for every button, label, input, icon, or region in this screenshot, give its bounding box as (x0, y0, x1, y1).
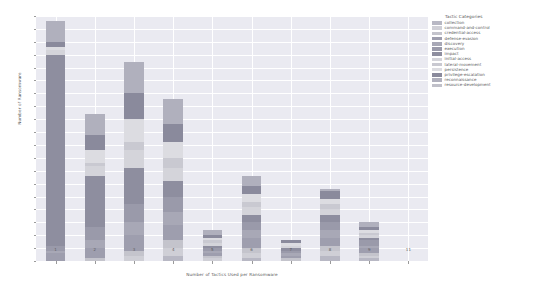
y-tick-mark (34, 106, 37, 107)
legend-title: Tactic Categories (445, 14, 535, 19)
bar-stack[interactable] (203, 230, 223, 261)
bar-segment[interactable] (163, 142, 183, 157)
bar-segment[interactable] (242, 194, 262, 202)
plot-area (36, 16, 428, 261)
bar-segment[interactable] (163, 99, 183, 125)
legend-label: lateral-movement (445, 63, 482, 67)
bar-segment[interactable] (359, 235, 379, 238)
bar-segment[interactable] (46, 47, 66, 50)
bar-segment[interactable] (124, 222, 144, 235)
legend-swatch (432, 63, 442, 67)
bar-segment[interactable] (242, 222, 262, 230)
bar-segment[interactable] (124, 150, 144, 168)
bar-segment[interactable] (320, 238, 340, 246)
legend-label: defense-evasion (445, 37, 479, 41)
bar-segment[interactable] (46, 253, 66, 261)
bar-segment[interactable] (359, 222, 379, 227)
bar-segment[interactable] (124, 93, 144, 119)
bar-segment[interactable] (281, 253, 301, 256)
legend-swatch (432, 42, 442, 46)
bar-segment[interactable] (85, 135, 105, 150)
bar-segment[interactable] (46, 55, 66, 246)
bar-segment[interactable] (203, 230, 223, 235)
bar-stack[interactable] (85, 114, 105, 261)
gridline-vertical (212, 16, 213, 261)
bar-segment[interactable] (46, 50, 66, 55)
bar-segment[interactable] (320, 191, 340, 199)
bar-stack[interactable] (163, 99, 183, 261)
legend-item[interactable]: resource-development (432, 83, 535, 88)
bar-segment[interactable] (281, 240, 301, 243)
x-tick-mark (56, 261, 57, 264)
bar-segment[interactable] (242, 207, 262, 215)
y-tick-mark (34, 145, 37, 146)
legend-label: resource-development (445, 83, 491, 87)
bar-segment[interactable] (281, 243, 301, 246)
bar-stack[interactable] (124, 62, 144, 261)
bar-stack[interactable] (46, 21, 66, 261)
bar-segment[interactable] (46, 21, 66, 42)
bar-segment[interactable] (359, 230, 379, 233)
legend-swatch (432, 32, 442, 36)
bar-segment[interactable] (359, 238, 379, 241)
bar-segment[interactable] (163, 197, 183, 212)
bar-segment[interactable] (242, 176, 262, 186)
bar-segment[interactable] (203, 240, 223, 243)
bar-segment[interactable] (203, 238, 223, 241)
bar-segment[interactable] (124, 62, 144, 93)
bar-segment[interactable] (359, 240, 379, 245)
bar-segment[interactable] (85, 176, 105, 228)
bar-segment[interactable] (242, 202, 262, 207)
bar-segment[interactable] (203, 253, 223, 256)
bar-segment[interactable] (320, 189, 340, 192)
y-tick-mark (34, 248, 37, 249)
bar-segment[interactable] (242, 230, 262, 238)
bar-segment[interactable] (242, 215, 262, 223)
x-tick-mark (212, 261, 213, 264)
bar-segment[interactable] (281, 256, 301, 259)
bar-segment[interactable] (85, 114, 105, 135)
x-tick-mark (408, 261, 409, 264)
bar-segment[interactable] (359, 227, 379, 230)
bar-segment[interactable] (124, 119, 144, 142)
bar-segment[interactable] (85, 166, 105, 176)
legend-swatch (432, 84, 442, 88)
bar-segment[interactable] (163, 158, 183, 168)
bar-segment[interactable] (320, 209, 340, 214)
bar-segment[interactable] (242, 186, 262, 194)
bar-segment[interactable] (85, 150, 105, 163)
bar-segment[interactable] (85, 227, 105, 240)
bar-segment[interactable] (163, 212, 183, 225)
bar-segment[interactable] (359, 256, 379, 259)
bar-segment[interactable] (163, 124, 183, 142)
bar-segment[interactable] (242, 253, 262, 258)
bar-segment[interactable] (163, 225, 183, 240)
bar-segment[interactable] (320, 199, 340, 204)
bar-segment[interactable] (163, 181, 183, 196)
legend-swatch (432, 52, 442, 56)
bar-segment[interactable] (203, 235, 223, 238)
bar-segment[interactable] (359, 253, 379, 256)
bar-segment[interactable] (320, 230, 340, 238)
legend-label: credential-access (445, 31, 481, 35)
bar-segment[interactable] (359, 233, 379, 236)
x-axis-title: Number of Tactics Used per Ransomware (36, 272, 428, 277)
bar-segment[interactable] (203, 256, 223, 259)
x-tick-mark (134, 261, 135, 264)
bar-segment[interactable] (320, 222, 340, 230)
legend-swatch (432, 26, 442, 30)
bar-segment[interactable] (320, 215, 340, 223)
bar-stack[interactable] (359, 222, 379, 261)
bar-segment[interactable] (320, 204, 340, 209)
bar-segment[interactable] (85, 163, 105, 166)
bar-segment[interactable] (124, 168, 144, 204)
y-tick-mark (34, 80, 37, 81)
y-tick-mark (34, 132, 37, 133)
chart-legend: Tactic Categories collectioncommand-and-… (432, 14, 535, 88)
bar-segment[interactable] (46, 42, 66, 47)
legend-swatch (432, 47, 442, 51)
bar-segment[interactable] (124, 204, 144, 222)
bar-segment[interactable] (124, 142, 144, 150)
bar-segment[interactable] (163, 168, 183, 181)
bar-segment[interactable] (203, 243, 223, 246)
